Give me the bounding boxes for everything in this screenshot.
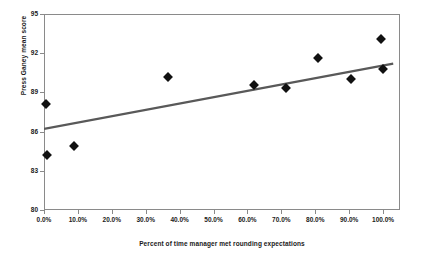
x-tick-mark [315,210,316,214]
x-axis-label: Percent of time manager met rounding exp… [44,240,400,247]
y-tick-mark [40,171,44,172]
x-tick-mark [247,210,248,214]
y-tick-label: 86 [12,128,38,135]
y-tick-label: 80 [12,206,38,213]
trend-line [44,14,400,210]
x-tick-mark [112,210,113,214]
y-tick-label: 83 [12,167,38,174]
x-tick-mark [146,210,147,214]
y-tick-mark [40,92,44,93]
y-tick-mark [40,14,44,15]
y-tick-label: 92 [12,49,38,56]
y-tick-label: 89 [12,88,38,95]
x-tick-mark [78,210,79,214]
x-tick-label: 100.0% [363,216,403,223]
y-tick-mark [40,132,44,133]
x-tick-mark [44,210,45,214]
x-tick-mark [214,210,215,214]
x-tick-mark [349,210,350,214]
x-tick-mark [281,210,282,214]
x-tick-mark [180,210,181,214]
y-tick-mark [40,53,44,54]
scatter-chart: Press Ganey mean score 808386899295 0.0%… [0,0,429,265]
y-tick-label: 95 [12,10,38,17]
x-tick-mark [383,210,384,214]
y-axis-label: Press Ganey mean score [20,0,27,124]
